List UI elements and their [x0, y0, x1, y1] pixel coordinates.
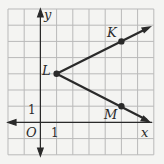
point-L — [53, 71, 59, 77]
point-label-L: L — [41, 63, 51, 78]
ray-LM — [57, 74, 147, 120]
point-label-K: K — [106, 25, 118, 40]
angle-graph: L K M y x O 1 1 — [0, 0, 164, 164]
origin-label: O — [26, 125, 37, 140]
point-K — [118, 38, 124, 44]
x-tick-label: 1 — [51, 126, 59, 140]
ray-LK-arrow-icon — [141, 26, 152, 34]
y-axis-top-arrow-icon — [38, 9, 44, 17]
x-axis-left-arrow-icon — [8, 120, 16, 126]
y-tick-label: 1 — [28, 103, 36, 117]
ray-LK — [57, 28, 148, 74]
y-axis-label: y — [43, 7, 52, 22]
x-axis-label: x — [141, 125, 149, 140]
coordinate-diagram: L K M y x O 1 1 — [0, 0, 164, 164]
point-M — [118, 103, 124, 109]
point-label-M: M — [103, 107, 118, 122]
